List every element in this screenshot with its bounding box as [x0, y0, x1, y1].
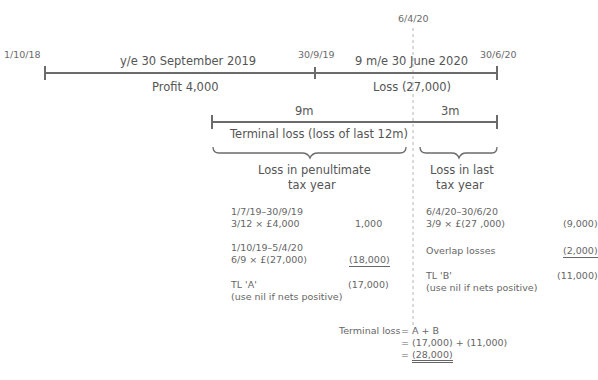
tl-a-note: (use nil if nets positive)	[231, 291, 342, 303]
penultimate-heading-1: Loss in penultimate	[258, 163, 371, 177]
period2-label: 9 m/e 30 June 2020	[355, 54, 468, 68]
terminal-loss-label: Terminal loss (loss of last 12m)	[230, 127, 408, 141]
last-row-1: 6/4/20–30/6/20 3/9 × £(27 ,000)	[426, 206, 505, 230]
span-9m: 9m	[295, 104, 314, 118]
period1-label: y/e 30 September 2019	[120, 54, 256, 68]
penultimate-row-1: 1/7/19–30/9/19 3/12 × £4,000	[231, 206, 303, 230]
date-end: 30/6/20	[480, 49, 517, 60]
summary-line-1: = A + B	[401, 325, 439, 337]
summary-line-2: = (17,000) + (11,000)	[401, 337, 507, 349]
penultimate-heading-2: tax year	[288, 178, 336, 192]
penultimate-row-2: 1/10/19–5/4/20 6/9 × £(27,000)	[231, 242, 307, 266]
last-row-2-label: Overlap losses	[426, 245, 496, 257]
date-cessation-ref: 6/4/20	[398, 13, 429, 24]
last-row-1-amount: (9,000)	[563, 218, 598, 230]
summary-label: Terminal loss	[339, 325, 401, 337]
brace-last	[420, 147, 497, 158]
tl-a-label: TL 'A'	[231, 279, 257, 291]
penultimate-row-1-amount: 1,000	[355, 218, 382, 230]
period2-result: Loss (27,000)	[373, 80, 451, 94]
last-heading-1: Loss in last	[430, 163, 494, 177]
tl-b-label: TL 'B'	[426, 270, 452, 282]
tl-b-amount: (11,000)	[557, 270, 598, 282]
summary-line-3: = (28,000)	[401, 349, 453, 361]
penultimate-row-2-amount: (18,000)	[349, 254, 390, 267]
summary-total: (28,000)	[412, 349, 453, 363]
tl-a-amount: (17,000)	[348, 279, 389, 291]
date-mid: 30/9/19	[298, 49, 335, 60]
last-heading-2: tax year	[436, 178, 484, 192]
last-row-2-amount: (2,000)	[563, 245, 598, 258]
period1-result: Profit 4,000	[152, 80, 219, 94]
tl-b-note: (use nil if nets positive)	[426, 282, 537, 294]
date-start: 1/10/18	[4, 49, 41, 60]
span-3m: 3m	[441, 104, 460, 118]
brace-penultimate	[213, 147, 406, 158]
